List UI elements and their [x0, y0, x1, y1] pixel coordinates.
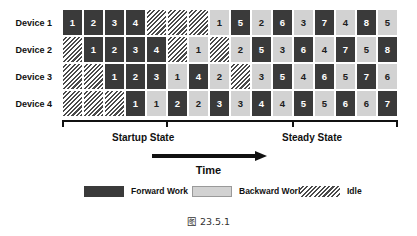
bracket-tick-right — [396, 120, 398, 127]
time-arrow-shaft — [152, 154, 256, 158]
figure-caption: 图 23.5.1 — [0, 214, 417, 228]
legend-item-idle: Idle — [300, 184, 362, 198]
legend-item-backward: Backward Work — [192, 184, 303, 198]
cell-forward: 6 — [272, 9, 293, 36]
bracket-tick-mid-2 — [292, 120, 294, 127]
cell-forward: 8 — [356, 9, 377, 36]
cell-backward: 3 — [230, 90, 251, 117]
cell-backward: 2 — [230, 36, 251, 63]
cell-idle — [146, 9, 167, 36]
bracket-line — [62, 120, 398, 122]
schedule-row: 1231423546576 — [62, 63, 398, 90]
cell-idle — [104, 90, 125, 117]
cell-forward: 4 — [251, 90, 272, 117]
cell-forward: 2 — [104, 36, 125, 63]
device-label-3: Device 3 — [0, 63, 60, 90]
cell-forward: 1 — [83, 36, 104, 63]
timeline-bracket — [62, 120, 398, 129]
cell-idle — [167, 9, 188, 36]
bracket-tick-left — [62, 120, 64, 127]
cell-forward: 6 — [293, 36, 314, 63]
cell-backward: 3 — [251, 63, 272, 90]
cell-backward: 5 — [356, 36, 377, 63]
cell-idle — [167, 36, 188, 63]
cell-forward: 2 — [167, 90, 188, 117]
cell-idle — [83, 63, 104, 90]
cell-backward: 4 — [335, 9, 356, 36]
cell-forward: 3 — [209, 90, 230, 117]
cell-backward: 3 — [293, 9, 314, 36]
cell-forward: 1 — [125, 90, 146, 117]
cell-backward: 6 — [377, 63, 398, 90]
legend-swatch-forward — [84, 186, 124, 197]
cell-forward: 7 — [314, 9, 335, 36]
cell-forward: 5 — [293, 90, 314, 117]
cell-forward: 5 — [230, 9, 251, 36]
cell-backward: 5 — [314, 90, 335, 117]
cell-forward: 7 — [335, 36, 356, 63]
cell-idle — [188, 9, 209, 36]
cell-backward: 5 — [377, 9, 398, 36]
cell-backward: 4 — [293, 63, 314, 90]
cell-forward: 3 — [125, 36, 146, 63]
time-arrow-head — [255, 151, 267, 161]
state-labels: Startup State Steady State — [62, 132, 398, 145]
cell-forward: 1 — [62, 9, 83, 36]
steady-state-label: Steady State — [282, 132, 342, 143]
cell-forward: 4 — [188, 63, 209, 90]
cell-idle — [230, 63, 251, 90]
cell-forward: 7 — [356, 63, 377, 90]
cell-forward: 7 — [377, 90, 398, 117]
cell-backward: 6 — [356, 90, 377, 117]
cell-forward: 3 — [146, 63, 167, 90]
cell-forward: 1 — [104, 63, 125, 90]
cell-idle — [209, 36, 230, 63]
legend-item-forward: Forward Work — [84, 184, 188, 198]
schedule-grid: 1234152637485123412536475812314235465761… — [62, 9, 398, 117]
bracket-tick-mid-1 — [166, 120, 168, 127]
cell-backward: 1 — [209, 9, 230, 36]
cell-backward: 3 — [272, 36, 293, 63]
cell-backward: 2 — [209, 63, 230, 90]
time-arrow-icon — [152, 151, 268, 160]
cell-forward: 4 — [125, 9, 146, 36]
cell-forward: 5 — [251, 36, 272, 63]
legend-label-forward: Forward Work — [131, 186, 188, 196]
startup-state-label: Startup State — [112, 132, 174, 143]
device-label-2: Device 2 — [0, 36, 60, 63]
schedule-row: 1234152637485 — [62, 9, 398, 36]
pipeline-schedule-figure: Device 1Device 2Device 3Device 4 1234152… — [0, 0, 417, 236]
device-label-1: Device 1 — [0, 9, 60, 36]
legend-label-idle: Idle — [347, 186, 362, 196]
cell-backward: 4 — [314, 36, 335, 63]
device-label-column: Device 1Device 2Device 3Device 4 — [0, 9, 60, 117]
cell-forward: 6 — [314, 63, 335, 90]
cell-forward: 2 — [83, 9, 104, 36]
cell-forward: 2 — [125, 63, 146, 90]
cell-forward: 5 — [272, 63, 293, 90]
cell-backward: 2 — [251, 9, 272, 36]
device-label-4: Device 4 — [0, 90, 60, 117]
legend-swatch-idle — [300, 186, 340, 197]
cell-forward: 4 — [146, 36, 167, 63]
cell-backward: 4 — [272, 90, 293, 117]
cell-backward: 1 — [146, 90, 167, 117]
legend-swatch-backward — [192, 186, 232, 197]
cell-idle — [62, 63, 83, 90]
cell-backward: 5 — [335, 63, 356, 90]
cell-idle — [62, 36, 83, 63]
cell-idle — [62, 90, 83, 117]
cell-idle — [83, 90, 104, 117]
schedule-row: 1122334455667 — [62, 90, 398, 117]
legend-label-backward: Backward Work — [239, 186, 303, 196]
cell-forward: 8 — [377, 36, 398, 63]
cell-forward: 6 — [335, 90, 356, 117]
cell-backward: 2 — [188, 90, 209, 117]
cell-backward: 1 — [167, 63, 188, 90]
cell-forward: 3 — [104, 9, 125, 36]
time-axis-label: Time — [0, 164, 417, 176]
schedule-row: 1234125364758 — [62, 36, 398, 63]
cell-backward: 1 — [188, 36, 209, 63]
legend: Forward WorkBackward WorkIdle — [62, 184, 362, 198]
